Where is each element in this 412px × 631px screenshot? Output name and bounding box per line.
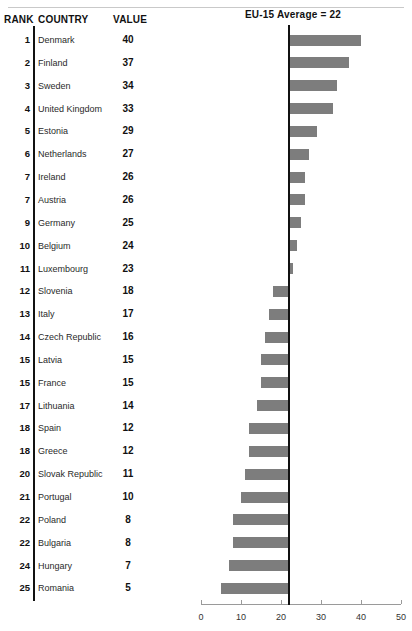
x-axis-tick-label: 20 [269, 612, 293, 622]
country-cell: Slovak Republic [38, 466, 108, 482]
value-cell: 23 [108, 261, 148, 277]
bar [261, 377, 289, 388]
country-cell: Romania [38, 580, 108, 596]
country-cell: Finland [38, 55, 108, 71]
table-row: 3Sweden34 [0, 78, 200, 94]
table-row: 12Slovenia18 [0, 283, 200, 299]
table-row: 13Italy17 [0, 306, 200, 322]
rank-cell: 24 [0, 558, 30, 574]
table-row: 21Portugal10 [0, 489, 200, 505]
value-cell: 12 [108, 443, 148, 459]
value-cell: 26 [108, 192, 148, 208]
rank-cell: 7 [0, 169, 30, 185]
table-row: 18Greece12 [0, 443, 200, 459]
bar [249, 446, 289, 457]
table-row: 18Spain12 [0, 420, 200, 436]
bar [289, 80, 337, 91]
value-cell: 14 [108, 398, 148, 414]
column-header-value: VALUE [113, 14, 147, 25]
table-row: 17Lithuania14 [0, 398, 200, 414]
country-cell: Italy [38, 306, 108, 322]
rank-cell: 1 [0, 32, 30, 48]
table-row: 10Belgium24 [0, 238, 200, 254]
table-row: 7Austria26 [0, 192, 200, 208]
x-axis-tick-label: 40 [349, 612, 373, 622]
x-axis-tick-label: 0 [189, 612, 213, 622]
bar [221, 583, 289, 594]
country-cell: Belgium [38, 238, 108, 254]
table-row: 1Denmark40 [0, 32, 200, 48]
country-cell: Denmark [38, 32, 108, 48]
bar [261, 354, 289, 365]
bar [289, 126, 317, 137]
x-axis-tick [281, 600, 282, 604]
bar [289, 172, 305, 183]
table-row: 4United Kingdom33 [0, 101, 200, 117]
value-cell: 8 [108, 512, 148, 528]
value-cell: 17 [108, 306, 148, 322]
country-cell: Sweden [38, 78, 108, 94]
rank-cell: 2 [0, 55, 30, 71]
rank-cell: 17 [0, 398, 30, 414]
x-axis-line [201, 604, 401, 605]
value-cell: 7 [108, 558, 148, 574]
value-cell: 18 [108, 283, 148, 299]
value-cell: 24 [108, 238, 148, 254]
country-cell: Germany [38, 215, 108, 231]
value-cell: 27 [108, 146, 148, 162]
table-row: 22Poland8 [0, 512, 200, 528]
rank-cell: 5 [0, 123, 30, 139]
table-row: 14Czech Republic16 [0, 329, 200, 345]
table-row: 9Germany25 [0, 215, 200, 231]
value-cell: 33 [108, 101, 148, 117]
rank-cell: 12 [0, 283, 30, 299]
country-cell: Czech Republic [38, 329, 108, 345]
bar [265, 332, 289, 343]
country-cell: Spain [38, 420, 108, 436]
top-divider-rule [8, 7, 404, 8]
value-cell: 15 [108, 375, 148, 391]
value-cell: 8 [108, 535, 148, 551]
table-row: 15France15 [0, 375, 200, 391]
rank-cell: 4 [0, 101, 30, 117]
table-row: 2Finland37 [0, 55, 200, 71]
x-axis-tick [201, 600, 202, 604]
rank-cell: 11 [0, 261, 30, 277]
country-cell: Ireland [38, 169, 108, 185]
country-cell: Slovenia [38, 283, 108, 299]
bar [289, 217, 301, 228]
bar [241, 492, 289, 503]
country-cell: Luxembourg [38, 261, 108, 277]
rank-cell: 9 [0, 215, 30, 231]
rank-cell: 10 [0, 238, 30, 254]
value-cell: 37 [108, 55, 148, 71]
bar [233, 537, 289, 548]
chart-page: RANK COUNTRY VALUE EU-15 Average = 22 1D… [0, 0, 412, 631]
table-row: 11Luxembourg23 [0, 261, 200, 277]
x-axis-tick [361, 600, 362, 604]
bar [273, 286, 289, 297]
country-cell: Portugal [38, 489, 108, 505]
value-cell: 5 [108, 580, 148, 596]
column-header-country: COUNTRY [38, 14, 88, 25]
x-axis-tick-label: 30 [309, 612, 333, 622]
value-cell: 25 [108, 215, 148, 231]
table-row: 24Hungary7 [0, 558, 200, 574]
rank-cell: 7 [0, 192, 30, 208]
rank-cell: 15 [0, 375, 30, 391]
value-cell: 10 [108, 489, 148, 505]
average-annotation-label: EU-15 Average = 22 [245, 9, 341, 20]
bar [229, 560, 289, 571]
bar [289, 103, 333, 114]
country-cell: Netherlands [38, 146, 108, 162]
country-cell: Bulgaria [38, 535, 108, 551]
table-row: 25Romania5 [0, 580, 200, 596]
rank-cell: 3 [0, 78, 30, 94]
bar [289, 35, 361, 46]
country-cell: United Kingdom [38, 101, 108, 117]
x-axis-tick [241, 600, 242, 604]
column-header-rank: RANK [4, 14, 34, 25]
table-row: 6Netherlands27 [0, 146, 200, 162]
x-axis-tick-label: 50 [389, 612, 412, 622]
x-axis-tick [321, 600, 322, 604]
